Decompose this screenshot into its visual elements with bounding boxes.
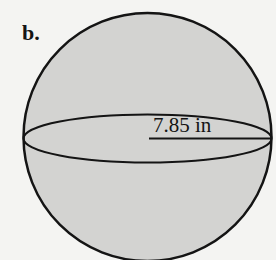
- radius-label: 7.85 in: [153, 113, 212, 137]
- sphere-figure: 7.85 in: [0, 0, 276, 260]
- sphere-outline: [24, 13, 272, 260]
